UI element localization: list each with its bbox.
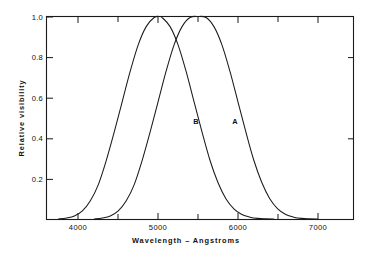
visibility-curves-figure: 1.0 0.8 0.6 0.4 0.2 4000 5000 6000 7000 … [0, 0, 366, 256]
y-axis-title: Relative visibility [17, 79, 26, 156]
y-tick-label-0.6: 0.6 [32, 94, 43, 103]
chart-canvas: 1.0 0.8 0.6 0.4 0.2 4000 5000 6000 7000 … [0, 0, 366, 256]
x-tick-label-5000: 5000 [149, 223, 167, 232]
curve-b-path [58, 16, 273, 219]
y-tick-label-0.2: 0.2 [32, 175, 43, 184]
y-axis-ticks [47, 17, 53, 179]
right-axis-ticks [348, 58, 353, 139]
y-tick-label-1.0: 1.0 [32, 13, 43, 22]
plot-frame [47, 17, 354, 220]
curve-label-a: A [232, 117, 238, 126]
x-axis-title: Wavelength – Angstroms [132, 236, 240, 245]
curve-a-path [94, 16, 317, 219]
x-tick-label-4000: 4000 [69, 223, 87, 232]
y-tick-label-0.8: 0.8 [32, 53, 43, 62]
x-tick-label-6000: 6000 [229, 223, 247, 232]
top-axis-ticks [78, 17, 318, 23]
x-tick-label-7000: 7000 [309, 223, 327, 232]
y-tick-label-0.4: 0.4 [32, 134, 43, 143]
curve-label-b: B [193, 117, 198, 126]
